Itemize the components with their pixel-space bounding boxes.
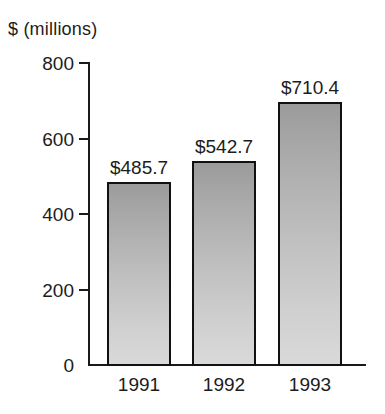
bar-value-label-1993: $710.4 (270, 78, 350, 97)
y-tick-mark-600 (79, 138, 90, 140)
bar-1991[interactable] (107, 182, 171, 366)
y-tick-label-200: 200 (14, 281, 74, 300)
x-axis-label-1993: 1993 (270, 374, 350, 396)
bar-value-label-1991: $485.7 (99, 158, 179, 177)
bar-value-label-1992: $542.7 (184, 137, 264, 156)
bar-chart: $ (millions) 800 600 400 200 0 $485.7 19… (0, 0, 385, 414)
y-axis-title: $ (millions) (8, 18, 97, 40)
y-tick-mark-800 (79, 62, 90, 64)
y-tick-label-400: 400 (14, 205, 74, 224)
y-tick-mark-200 (79, 289, 90, 291)
y-tick-mark-400 (79, 213, 90, 215)
y-tick-label-800: 800 (14, 54, 74, 73)
y-tick-label-0: 0 (14, 356, 74, 375)
x-axis-label-1991: 1991 (99, 374, 179, 396)
bar-1992[interactable] (192, 161, 256, 366)
bar-1993[interactable] (278, 102, 342, 366)
x-axis-label-1992: 1992 (184, 374, 264, 396)
y-tick-label-600: 600 (14, 130, 74, 149)
